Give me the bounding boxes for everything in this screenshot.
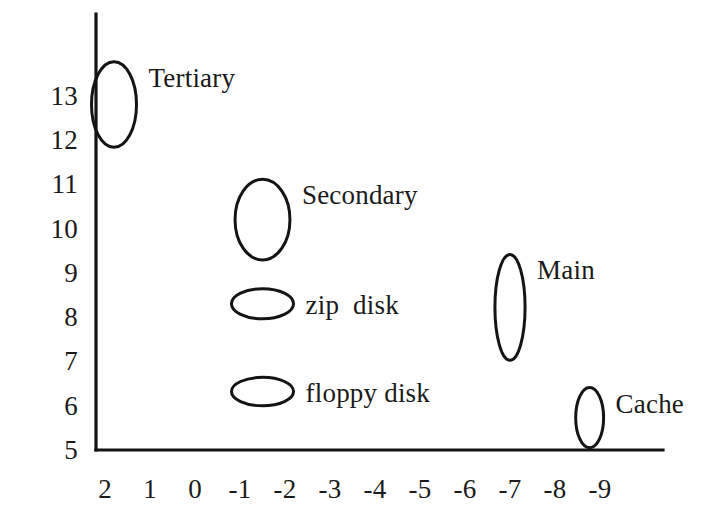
x-axis-tick-label: -6 <box>454 476 477 503</box>
data-marker-ellipse <box>231 289 293 319</box>
data-marker-ellipse <box>231 377 293 405</box>
data-marker-ellipse <box>235 179 290 260</box>
x-axis-tick-label: -4 <box>364 476 387 503</box>
data-point-label: Tertiary <box>149 64 236 91</box>
x-axis-tick-label: -7 <box>499 476 522 503</box>
data-marker-ellipse <box>576 388 604 448</box>
data-point-label: Main <box>537 257 595 284</box>
y-axis-tick-label: 7 <box>22 348 78 375</box>
x-axis-tick-label: -3 <box>319 476 342 503</box>
data-point-label: Secondary <box>302 182 418 209</box>
plot-area <box>0 0 716 530</box>
x-axis-tick-label: -5 <box>409 476 432 503</box>
x-axis-tick-label: 0 <box>188 476 202 503</box>
y-axis-tick-label: 9 <box>22 259 78 286</box>
y-axis-tick-label: 10 <box>22 215 78 242</box>
x-axis-tick-label: -1 <box>229 476 252 503</box>
x-axis-tick-label: 1 <box>143 476 157 503</box>
data-point-label: floppy disk <box>306 380 430 407</box>
data-point-label: Cache <box>616 390 684 417</box>
x-axis-tick-label: -8 <box>544 476 567 503</box>
data-marker-ellipse <box>92 62 137 147</box>
data-marker-ellipse <box>495 254 525 360</box>
x-axis-tick-label: 2 <box>98 476 112 503</box>
x-axis-tick-label: -2 <box>274 476 297 503</box>
y-axis-tick-label: 6 <box>22 392 78 419</box>
x-axis-tick-label: -9 <box>589 476 612 503</box>
y-axis-tick-label: 11 <box>22 171 78 198</box>
data-point-label: zip disk <box>306 291 399 318</box>
y-axis-tick-label: 12 <box>22 126 78 153</box>
y-axis-tick-label: 8 <box>22 304 78 331</box>
y-axis-tick-label: 5 <box>22 437 78 464</box>
memory-hierarchy-chart: 1312111098765 210-1-2-3-4-5-6-7-8-9 Tert… <box>0 0 716 530</box>
y-axis-tick-label: 13 <box>22 82 78 109</box>
